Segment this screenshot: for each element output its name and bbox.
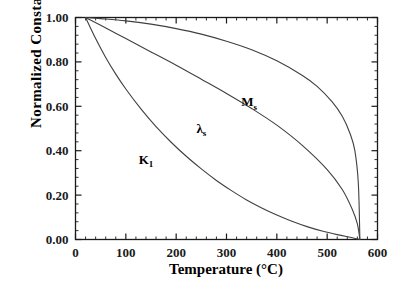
x-tick-label: 100 (116, 245, 136, 260)
curve-labels: MsλsK1 (139, 94, 258, 169)
curve-label-K_1: K1 (139, 152, 154, 169)
plot-frame (76, 18, 378, 240)
x-tick-label: 300 (217, 245, 237, 260)
y-tick-label: 0.60 (46, 99, 69, 114)
x-tick-label: 0 (72, 245, 79, 260)
x-tick-label: 600 (368, 245, 388, 260)
plot-area: 01002003004005006000.000.200.400.600.801… (0, 0, 403, 288)
curve-lambda_s (86, 18, 360, 240)
y-tick-label: 0.80 (46, 54, 69, 69)
y-tick-label: 0.20 (46, 188, 69, 203)
y-tick-label: 1.00 (46, 10, 69, 25)
axis-tick-labels: 01002003004005006000.000.200.400.600.801… (46, 10, 388, 260)
x-tick-label: 200 (166, 245, 186, 260)
curve-label-M_s: Ms (241, 94, 257, 111)
chart-figure: Normalized Constants Temperature (°C) 01… (0, 0, 403, 288)
x-tick-label: 400 (267, 245, 287, 260)
y-tick-label: 0.40 (46, 143, 69, 158)
data-curves (86, 18, 360, 240)
curve-M_s (86, 18, 360, 240)
x-tick-label: 500 (317, 245, 337, 260)
curve-label-lambda_s: λs (196, 121, 206, 138)
curve-K_1 (86, 18, 360, 240)
axis-ticks (76, 18, 378, 240)
y-tick-label: 0.00 (46, 232, 69, 247)
